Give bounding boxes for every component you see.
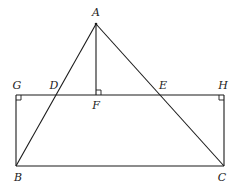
right-angle-marker-F xyxy=(96,90,101,95)
label-F: F xyxy=(91,99,100,112)
label-B: B xyxy=(13,171,22,184)
label-A: A xyxy=(91,6,100,19)
label-D: D xyxy=(49,79,59,92)
vertex-A-dot xyxy=(95,23,98,26)
label-E: E xyxy=(158,79,167,92)
label-G: G xyxy=(13,79,22,92)
label-H: H xyxy=(217,79,228,92)
right-angle-marker-H xyxy=(219,95,224,100)
geometry-diagram: A G D E H F B C xyxy=(0,0,240,185)
label-C: C xyxy=(218,171,227,184)
right-angle-marker-G xyxy=(16,95,21,100)
